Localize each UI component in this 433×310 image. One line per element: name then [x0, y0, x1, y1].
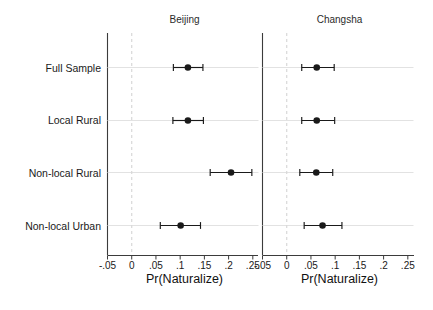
- coefficient-plot-figure: Beijing Changsha Full Sample Local Rural…: [0, 0, 433, 310]
- x-axis-title-right: Pr(Naturalize): [262, 272, 417, 286]
- x-axis-title-left: Pr(Naturalize): [107, 272, 262, 286]
- category-label-local-rural: Local Rural: [0, 114, 101, 126]
- data-point-0: [185, 64, 192, 71]
- category-label-non-local-urban: Non-local Urban: [0, 220, 101, 232]
- category-label-non-local-rural: Non-local Rural: [0, 167, 101, 179]
- data-point-1: [313, 117, 320, 124]
- data-point-2: [313, 169, 320, 176]
- data-point-3: [319, 222, 326, 229]
- axis-tick-group: [108, 256, 408, 260]
- grid-and-data-group: [108, 33, 414, 255]
- data-point-1: [185, 117, 192, 124]
- x-tick-label-6: .25: [391, 260, 425, 271]
- category-label-full-sample: Full Sample: [0, 62, 101, 74]
- data-point-2: [228, 169, 235, 176]
- panel-title-beijing: Beijing: [107, 14, 262, 25]
- data-point-3: [177, 222, 184, 229]
- data-point-0: [313, 64, 320, 71]
- panel-title-changsha: Changsha: [262, 14, 417, 25]
